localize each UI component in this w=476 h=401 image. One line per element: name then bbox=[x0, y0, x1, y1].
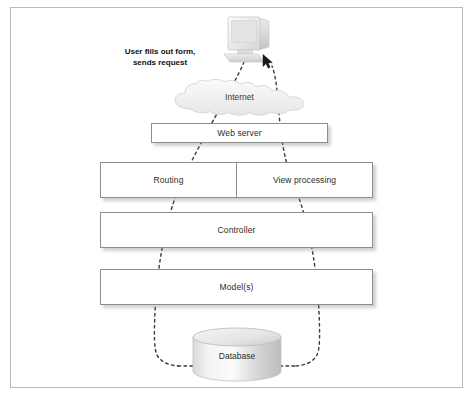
figure-container: Internet User fills out form, sends requ… bbox=[0, 0, 476, 401]
node-routing-label: Routing bbox=[154, 176, 184, 185]
node-web-server-label: Web server bbox=[217, 129, 261, 138]
node-view-processing: View processing bbox=[237, 163, 372, 197]
node-models: Model(s) bbox=[100, 269, 373, 305]
node-routing-view-row: Routing View processing bbox=[100, 162, 373, 198]
node-controller: Controller bbox=[100, 212, 373, 248]
node-database-label: Database bbox=[189, 352, 285, 361]
node-models-label: Model(s) bbox=[220, 283, 254, 292]
mouse-cursor-icon bbox=[262, 54, 274, 70]
node-view-processing-label: View processing bbox=[273, 176, 336, 185]
node-controller-label: Controller bbox=[218, 226, 256, 235]
node-routing: Routing bbox=[101, 163, 237, 197]
node-web-server: Web server bbox=[151, 123, 328, 143]
user-action-note-line1: User fills out form, bbox=[104, 47, 216, 58]
user-action-note: User fills out form, sends request bbox=[104, 47, 216, 69]
user-action-note-line2: sends request bbox=[104, 58, 216, 69]
cloud-label: Internet bbox=[171, 93, 308, 102]
